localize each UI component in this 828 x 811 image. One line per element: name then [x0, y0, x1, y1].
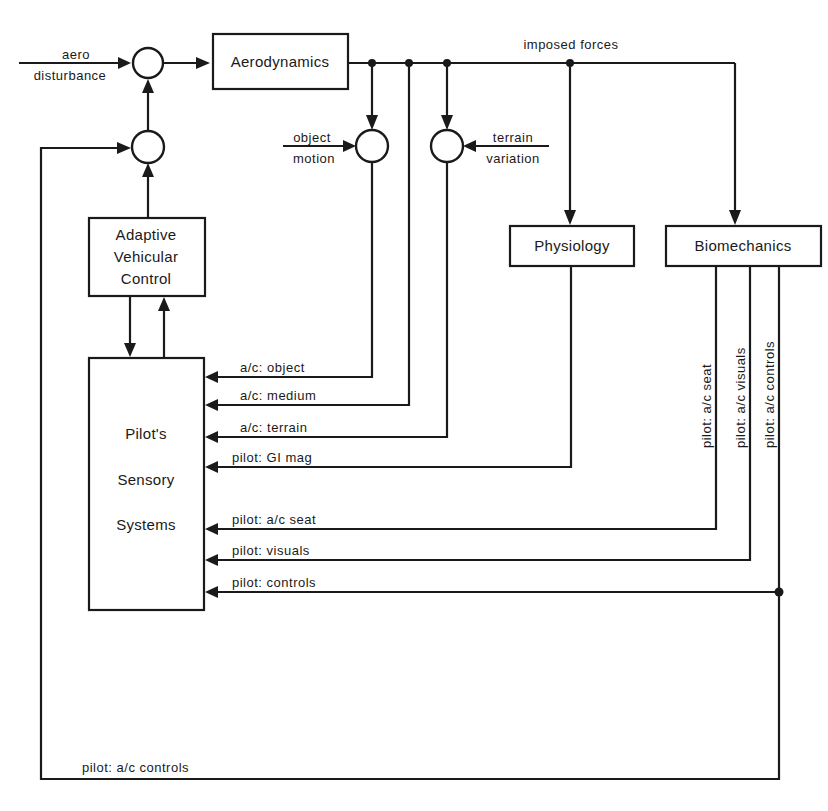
arrow-up-icon	[142, 163, 154, 177]
arrow-down-icon	[564, 210, 576, 225]
arrow-left-icon	[205, 586, 218, 598]
arrow-left-icon	[205, 399, 218, 411]
pilot-visuals-label: pilot: visuals	[232, 543, 310, 558]
variation-label: variation	[486, 151, 540, 166]
vertical-pilot-ac-controls-label: pilot: a/c controls	[762, 341, 777, 448]
arrow-down-icon	[366, 115, 378, 130]
control-label: Control	[121, 270, 171, 287]
arrow-left-icon	[205, 554, 218, 566]
imposed-forces-label: imposed forces	[523, 37, 618, 52]
pilot-ac-seat-label: pilot: a/c seat	[232, 512, 316, 527]
arrow-left-icon	[205, 461, 218, 473]
arrow-left-icon	[205, 523, 218, 535]
summing-junction-object	[356, 130, 388, 162]
summing-junction-control	[132, 131, 164, 163]
arrow-up-icon	[142, 79, 154, 93]
sensory-label: Sensory	[117, 471, 174, 488]
arrow-down-icon	[441, 115, 453, 130]
aero-label: aero	[62, 47, 90, 62]
arrow-left-icon	[463, 140, 476, 152]
disturbance-label: disturbance	[34, 68, 107, 83]
biomechanics-label: Biomechanics	[695, 237, 792, 254]
pilots-label: Pilot's	[125, 425, 167, 442]
aerodynamics-label: Aerodynamics	[231, 53, 330, 70]
return-pilot-ac-controls-label: pilot: a/c controls	[82, 760, 189, 775]
ac-medium-line	[218, 63, 409, 405]
junction-dot	[775, 588, 784, 597]
arrow-right-icon	[118, 57, 131, 69]
physiology-label: Physiology	[534, 237, 610, 254]
motion-label: motion	[293, 151, 335, 166]
arrow-down-icon	[124, 343, 136, 357]
vehicular-label: Vehicular	[114, 248, 178, 265]
vertical-pilot-ac-visuals-label: pilot: a/c visuals	[733, 347, 748, 448]
biomechanics-block: Biomechanics	[666, 226, 821, 266]
summing-junction-terrain	[431, 130, 463, 162]
arrow-left-icon	[205, 431, 218, 443]
arrow-right-icon	[117, 142, 131, 154]
ac-medium-label: a/c: medium	[240, 388, 316, 403]
pilot-gi-mag-label: pilot: GI mag	[232, 450, 312, 465]
physiology-block: Physiology	[510, 226, 634, 266]
arrow-down-icon	[729, 210, 741, 225]
arrow-right-icon	[343, 140, 356, 152]
ac-object-line	[218, 162, 372, 377]
object-label: object	[293, 130, 331, 145]
aero-disturbance-input: aero disturbance	[19, 47, 131, 83]
ac-object-label: a/c: object	[240, 360, 305, 375]
terrain-label: terrain	[493, 130, 533, 145]
pilot-vehicle-block-diagram: aero disturbance Aerodynamics imposed fo…	[0, 0, 828, 811]
pilot-controls-label: pilot: controls	[232, 575, 316, 590]
ac-terrain-label: a/c: terrain	[240, 420, 307, 435]
arrow-left-icon	[205, 371, 218, 383]
arrow-right-icon	[196, 57, 210, 69]
systems-label: Systems	[116, 516, 176, 533]
arrow-up-icon	[158, 297, 170, 311]
adaptive-vehicular-control-block: Adaptive Vehicular Control	[89, 218, 205, 296]
summing-junction-aero	[133, 48, 163, 78]
vertical-pilot-ac-seat-label: pilot: a/c seat	[699, 364, 714, 448]
adaptive-label: Adaptive	[116, 226, 177, 243]
pilots-sensory-systems-block: Pilot's Sensory Systems	[89, 358, 204, 610]
aerodynamics-block: Aerodynamics	[213, 34, 348, 89]
